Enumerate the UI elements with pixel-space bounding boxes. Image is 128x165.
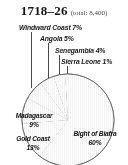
callout-senegambia: Senegambia 4% <box>55 46 105 55</box>
title-year: 1718–26 <box>21 3 68 18</box>
slice-label-madagascar-pct: 9% <box>29 120 38 129</box>
callout-sierra-leone: Sierra Leone 1% <box>61 57 112 66</box>
slice-label-bight-of-biafra: Bight of Biafra 60% <box>67 130 123 147</box>
title-total: (total: 8,400) <box>71 9 108 17</box>
figure-title: 1718–26(total: 8,400) <box>0 1 128 19</box>
slice-label-biafra-pct: 60% <box>89 138 102 147</box>
pie-chart-figure: 1718–26(total: 8,400) Windward Coast 7% … <box>0 0 128 165</box>
slice-label-gold-coast-pct: 13% <box>27 143 40 152</box>
slice-label-madagascar: Madagascar 9% <box>11 112 58 129</box>
callout-angola: Angola 5% <box>40 34 74 43</box>
callout-windward-coast: Windward Coast 7% <box>19 23 82 32</box>
slice-label-gold-coast: Gold Coast 13% <box>9 135 58 152</box>
